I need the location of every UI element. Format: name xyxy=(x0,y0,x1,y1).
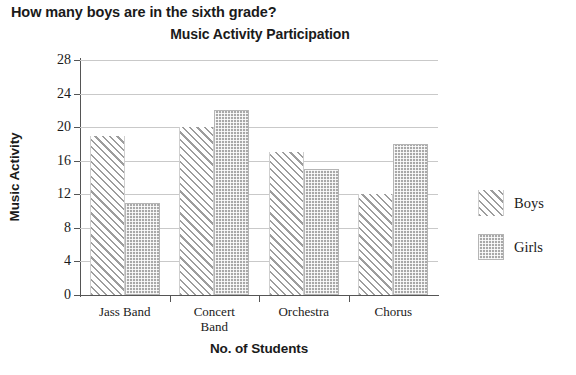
y-tick-label: 16 xyxy=(57,153,71,169)
legend-swatch-girls xyxy=(478,234,504,260)
legend-label: Boys xyxy=(514,195,544,212)
y-tick-label: 12 xyxy=(57,186,71,202)
y-tick-label: 24 xyxy=(57,86,71,102)
bar-boys xyxy=(90,136,125,295)
bar-boys xyxy=(358,194,393,295)
bar-boys xyxy=(269,152,304,295)
y-tick-label: 20 xyxy=(57,119,71,135)
bar-group: Chorus xyxy=(349,60,439,295)
bar-group: Jass Band xyxy=(80,60,170,295)
legend-label: Girls xyxy=(514,239,543,256)
chart-title: Music Activity Participation xyxy=(80,26,440,42)
x-tick-label: Chorus xyxy=(349,304,439,319)
y-tick xyxy=(74,295,80,296)
y-tick-label: 28 xyxy=(57,52,71,68)
x-tick xyxy=(170,295,171,302)
y-tick-label: 4 xyxy=(64,253,71,269)
x-tick-label: Jass Band xyxy=(80,304,170,319)
x-tick xyxy=(259,295,260,302)
question-text: How many boys are in the sixth grade? xyxy=(11,4,276,20)
x-tick-label: Orchestra xyxy=(259,304,349,319)
legend-item-girls: Girls xyxy=(478,234,544,260)
bar-group: ConcertBand xyxy=(170,60,260,295)
legend: BoysGirls xyxy=(478,190,544,278)
legend-item-boys: Boys xyxy=(478,190,544,216)
bar-group: Orchestra xyxy=(259,60,349,295)
bar-girls xyxy=(125,203,160,295)
bar-girls xyxy=(393,144,428,295)
x-tick xyxy=(349,295,350,302)
bar-boys xyxy=(179,127,214,295)
legend-swatch-boys xyxy=(478,190,504,216)
bar-girls xyxy=(304,169,339,295)
y-tick-label: 8 xyxy=(64,220,71,236)
y-axis-title: Music Activity xyxy=(7,133,22,222)
bar-girls xyxy=(214,110,249,295)
x-axis-title: No. of Students xyxy=(80,341,438,356)
x-tick-label: ConcertBand xyxy=(170,304,260,334)
y-tick-label: 0 xyxy=(64,287,71,303)
plot-area: 0481216202428 Jass BandConcertBandOrches… xyxy=(80,60,438,295)
